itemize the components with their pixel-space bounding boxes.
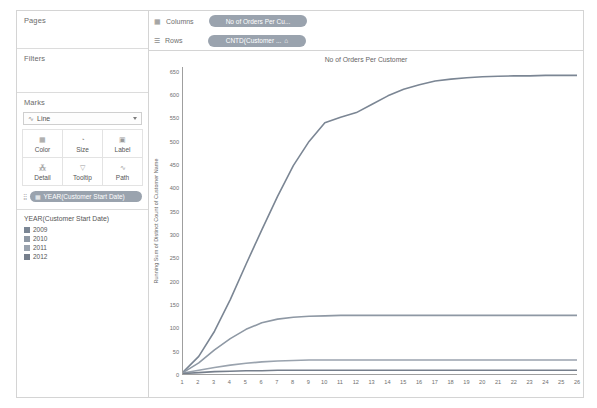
legend-item-label: 2011 (33, 244, 47, 251)
y-axis-tick-label: 50 (173, 349, 179, 355)
chevron-down-icon (133, 117, 137, 120)
x-axis-tick-label: 9 (307, 379, 310, 385)
legend-title: YEAR(Customer Start Date) (24, 215, 141, 222)
mark-type-dropdown[interactable]: ∿ Line (23, 112, 142, 125)
tableau-worksheet: Pages Filters Marks ∿ Line ▦ Color ◔ (16, 10, 584, 398)
chart-canvas: No of Orders Per Customer Running Sum of… (149, 51, 583, 397)
rows-icon: ☰ (154, 37, 160, 44)
pages-label: Pages (17, 11, 148, 28)
x-axis-tick-label: 4 (228, 379, 231, 385)
marks-button-detail-label: Detail (34, 174, 51, 181)
x-axis-tick-label: 24 (542, 379, 548, 385)
marks-button-path[interactable]: ∿ Path (103, 158, 143, 186)
x-axis-tick-label: 6 (259, 379, 262, 385)
x-axis-tick-label: 26 (574, 379, 580, 385)
y-axis-tick-label: 250 (170, 255, 179, 261)
y-axis-tick-label: 100 (170, 325, 179, 331)
rows-pill-label: CNTD(Customer ... (226, 37, 282, 44)
columns-pill[interactable]: No of Orders Per Cu... (209, 15, 307, 27)
y-axis-tick-label: 500 (170, 139, 179, 145)
marks-button-label[interactable]: ▣ Label (103, 130, 143, 158)
x-axis-tick-label: 3 (212, 379, 215, 385)
columns-label: Columns (166, 18, 204, 25)
detail-icon: ⁂ (39, 163, 46, 173)
line-series (183, 75, 577, 372)
x-axis-tick-label: 25 (558, 379, 564, 385)
line-series (183, 370, 577, 373)
marks-button-label-label: Label (115, 146, 131, 153)
marks-button-color[interactable]: ▦ Color (23, 130, 63, 158)
y-axis-tick-label: 0 (176, 372, 179, 378)
x-axis-tick-label: 8 (291, 379, 294, 385)
legend-swatch (24, 227, 30, 233)
x-axis-tick-label: 1 (180, 379, 183, 385)
x-axis-tick-label: 11 (337, 379, 343, 385)
pages-dropzone[interactable] (17, 28, 148, 48)
x-axis-tick-label: 21 (495, 379, 501, 385)
color-icon: ▦ (39, 135, 46, 145)
marks-buttons: ▦ Color ◔ Size ▣ Label ⁂ Detail ▽ Tool (22, 129, 143, 186)
label-icon: ▣ (119, 135, 126, 145)
x-axis-tick-label: 20 (479, 379, 485, 385)
filters-shelf[interactable]: Filters (17, 49, 148, 93)
x-axis-tick-label: 15 (400, 379, 406, 385)
x-axis-tick-label: 13 (368, 379, 374, 385)
columns-pill-label: No of Orders Per Cu... (226, 18, 291, 25)
mark-type-value: Line (37, 115, 50, 122)
columns-icon: ▦ (154, 18, 161, 25)
chart-title: No of Orders Per Customer (149, 51, 583, 63)
x-axis-tick-label: 17 (432, 379, 438, 385)
x-axis-tick-label: 18 (447, 379, 453, 385)
y-axis-tick-label: 550 (170, 115, 179, 121)
legend-item[interactable]: 2010 (24, 234, 141, 243)
legend-item-label: 2010 (33, 235, 47, 242)
path-icon: ∿ (120, 163, 126, 173)
rows-label: Rows (165, 37, 203, 44)
y-axis-ticks: 050100150200250300350400450500550600650 (159, 67, 181, 375)
worksheet-main: ▦ Columns No of Orders Per Cu... ☰ Rows … (148, 10, 584, 398)
y-axis-tick-label: 600 (170, 92, 179, 98)
marks-button-detail[interactable]: ⁂ Detail (23, 158, 63, 186)
y-axis-tick-label: 650 (170, 69, 179, 75)
table-calc-icon: ⌂ (284, 37, 288, 44)
pages-shelf[interactable]: Pages (17, 11, 148, 49)
plot-wrapper: Running Sum of Distinct Count of Custome… (149, 67, 583, 397)
marks-color-pill-label: YEAR(Customer Start Date) (44, 193, 125, 200)
line-mark-icon: ∿ (28, 115, 34, 122)
x-axis-tick-label: 22 (511, 379, 517, 385)
marks-pill-row[interactable]: ⣿ ▦ YEAR(Customer Start Date) (23, 191, 142, 202)
rows-pill[interactable]: CNTD(Customer ... ⌂ (208, 35, 306, 47)
rows-shelf[interactable]: ☰ Rows CNTD(Customer ... ⌂ (149, 31, 583, 51)
legend-item[interactable]: 2009 (24, 225, 141, 234)
x-axis-tick-label: 5 (244, 379, 247, 385)
legend-swatch (24, 254, 30, 260)
legend-item-label: 2012 (33, 253, 47, 260)
plot-area (182, 67, 577, 375)
y-axis-tick-label: 200 (170, 279, 179, 285)
x-axis-tick-label: 16 (416, 379, 422, 385)
marks-button-path-label: Path (116, 174, 129, 181)
line-chart (183, 67, 577, 374)
legend-swatch (24, 245, 30, 251)
x-axis-tick-label: 19 (463, 379, 469, 385)
marks-label: Marks (17, 93, 148, 110)
y-axis-tick-label: 150 (170, 302, 179, 308)
marks-color-pill[interactable]: ▦ YEAR(Customer Start Date) (30, 191, 143, 202)
marks-button-color-label: Color (35, 146, 51, 153)
y-axis-tick-label: 300 (170, 232, 179, 238)
columns-shelf[interactable]: ▦ Columns No of Orders Per Cu... (149, 11, 583, 31)
x-axis-ticks: 1234567891011121314151617181920212223242… (182, 379, 577, 389)
filters-dropzone[interactable] (17, 66, 148, 92)
drag-handle-icon[interactable]: ⣿ (23, 194, 27, 200)
y-axis-tick-label: 400 (170, 185, 179, 191)
marks-button-size[interactable]: ◔ Size (63, 130, 103, 158)
dimension-icon: ▦ (35, 193, 41, 200)
left-sidebar: Pages Filters Marks ∿ Line ▦ Color ◔ (16, 10, 148, 398)
marks-button-size-label: Size (76, 146, 89, 153)
marks-button-tooltip[interactable]: ▽ Tooltip (63, 158, 103, 186)
legend-item[interactable]: 2011 (24, 243, 141, 252)
y-axis-tick-label: 450 (170, 162, 179, 168)
x-axis-tick-label: 2 (196, 379, 199, 385)
legend-item[interactable]: 2012 (24, 252, 141, 261)
x-axis-tick-label: 23 (526, 379, 532, 385)
